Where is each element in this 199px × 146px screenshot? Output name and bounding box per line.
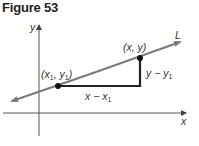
point-x-y — [137, 55, 143, 61]
y-axis-label: y — [29, 21, 36, 33]
line-label: L — [175, 29, 181, 41]
vertical-leg-label: y − y1 — [145, 67, 172, 80]
point-x-y-label: (x, y) — [123, 41, 146, 53]
x-axis-label: x — [180, 115, 187, 127]
point-x1-y1-label: (x1, y1) — [41, 68, 72, 81]
point-x1-y1 — [55, 83, 61, 89]
horizontal-leg-label: x − x1 — [84, 90, 111, 103]
figure-diagram: x y L (x1, y1) (x, y) x − x1 y − y1 — [0, 0, 199, 146]
